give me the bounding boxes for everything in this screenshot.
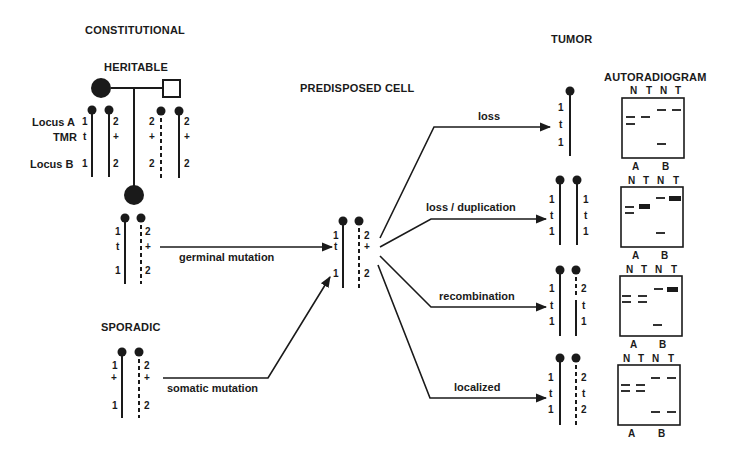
loss-label: loss xyxy=(478,110,500,122)
lane-label: T xyxy=(646,85,652,96)
allele: 1 xyxy=(583,226,589,237)
lane-label: N xyxy=(652,353,659,364)
lane-label: N xyxy=(628,175,635,186)
sporadic-heading: SPORADIC xyxy=(101,321,161,333)
affected-child-symbol xyxy=(124,185,144,205)
allele: + xyxy=(145,241,151,252)
allele: 1 xyxy=(549,194,555,205)
allele: 2 xyxy=(184,116,190,127)
lane-label: T xyxy=(638,353,644,364)
tumor-recombination xyxy=(556,266,581,337)
allele: 2 xyxy=(581,283,587,294)
autoradiogram-recombination xyxy=(620,276,682,336)
allele: 2 xyxy=(144,360,150,371)
somatic-mutation-label: somatic mutation xyxy=(167,382,258,394)
allele: 2 xyxy=(144,400,150,411)
allele: t xyxy=(584,210,587,221)
affected-mother-symbol xyxy=(91,78,111,98)
allele: t xyxy=(116,241,119,252)
allele: 1 xyxy=(558,137,564,148)
localized-arrow xyxy=(378,265,546,398)
row-label-tmr: TMR xyxy=(53,131,77,143)
allele: 1 xyxy=(112,400,118,411)
autoradiogram-loss xyxy=(622,98,684,158)
allele: t xyxy=(334,241,337,252)
constitutional-heading: CONSTITUTIONAL xyxy=(85,24,185,36)
loss-duplication-label: loss / duplication xyxy=(426,201,516,213)
allele: 1 xyxy=(333,230,339,241)
lane-label: T xyxy=(641,264,647,275)
allele: 2 xyxy=(145,226,151,237)
allele: t xyxy=(550,300,553,311)
tumor-heading: TUMOR xyxy=(551,33,592,45)
allele: 1 xyxy=(581,316,587,327)
locus-label: B xyxy=(661,250,668,261)
allele: t xyxy=(582,388,585,399)
allele: t xyxy=(549,388,552,399)
allele: 2 xyxy=(364,230,370,241)
lane-label: N xyxy=(655,264,662,275)
allele: 1 xyxy=(333,268,339,279)
lane-label: N xyxy=(626,264,633,275)
allele: 2 xyxy=(149,158,155,169)
tumor-loss-duplication xyxy=(556,176,582,246)
locus-label: A xyxy=(628,428,635,439)
tumor-loss xyxy=(566,87,575,157)
autoradiogram-loss-duplication xyxy=(621,187,683,247)
allele: 1 xyxy=(549,283,555,294)
loss-arrow xyxy=(380,127,550,238)
lane-label: T xyxy=(675,85,681,96)
locus-label: A xyxy=(630,339,637,350)
allele: 1 xyxy=(82,158,88,169)
recombination-label: recombination xyxy=(439,290,515,302)
allele: 1 xyxy=(549,316,555,327)
allele: 1 xyxy=(583,194,589,205)
allele: 1 xyxy=(115,226,121,237)
localized-label: localized xyxy=(454,381,500,393)
allele: 1 xyxy=(115,265,121,276)
loss-duplication-arrow xyxy=(380,219,546,247)
locus-label: B xyxy=(662,161,669,172)
allele: + xyxy=(111,372,117,383)
locus-label: B xyxy=(658,428,665,439)
allele: 1 xyxy=(82,116,88,127)
lane-label: N xyxy=(623,353,630,364)
allele: t xyxy=(582,300,585,311)
allele: t xyxy=(550,210,553,221)
lane-label: N xyxy=(660,85,667,96)
predisposed-cell-heading: PREDISPOSED CELL xyxy=(300,82,414,94)
lane-label: T xyxy=(673,175,679,186)
allele: 2 xyxy=(113,116,119,127)
allele: 1 xyxy=(548,404,554,415)
locus-label: A xyxy=(632,250,639,261)
allele: 2 xyxy=(581,404,587,415)
allele: 2 xyxy=(184,158,190,169)
allele: 1 xyxy=(558,102,564,113)
parent-chromosomes xyxy=(88,106,184,179)
allele: 2 xyxy=(145,265,151,276)
autoradiogram-localized xyxy=(618,365,680,425)
allele: 1 xyxy=(549,226,555,237)
allele: 2 xyxy=(581,372,587,383)
tumor-localized xyxy=(556,354,581,426)
allele: + xyxy=(149,131,155,142)
allele: 2 xyxy=(149,116,155,127)
allele: 1 xyxy=(112,360,118,371)
lane-label: T xyxy=(668,353,674,364)
row-label-locus-a: Locus A xyxy=(32,116,75,128)
sporadic-chromosomes xyxy=(118,348,144,419)
lane-label: N xyxy=(657,175,664,186)
heritable-heading: HERITABLE xyxy=(104,61,168,73)
allele: t xyxy=(83,131,86,142)
allele: + xyxy=(113,131,119,142)
predisposed-chromosomes xyxy=(339,217,364,289)
locus-label: A xyxy=(632,161,639,172)
heritable-child-chromosomes xyxy=(121,214,146,285)
lane-label: T xyxy=(643,175,649,186)
father-symbol xyxy=(163,80,180,97)
allele: t xyxy=(559,119,562,130)
locus-label: B xyxy=(659,339,666,350)
somatic-mutation-arrow xyxy=(163,277,330,378)
allele: + xyxy=(184,131,190,142)
row-label-locus-b: Locus B xyxy=(30,158,73,170)
